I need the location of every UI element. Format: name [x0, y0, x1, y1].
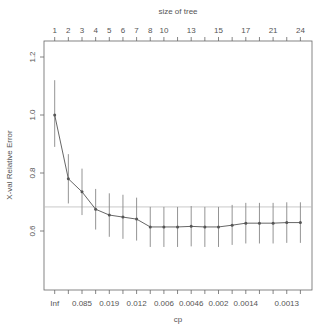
x-axis-title: cp [174, 315, 183, 324]
bottom-tick-label: Inf [50, 299, 60, 308]
top-tick-label: 2 [66, 26, 71, 35]
data-point [67, 177, 70, 180]
bottom-tick-label: 0.006 [154, 299, 175, 308]
bottom-tick-label: 0.085 [72, 299, 93, 308]
data-point [121, 216, 124, 219]
data-point [81, 190, 84, 193]
top-tick-label: 3 [80, 26, 85, 35]
data-point [108, 214, 111, 217]
top-tick-label: 10 [159, 26, 168, 35]
data-point [244, 222, 247, 225]
data-point [94, 208, 97, 211]
y-tick-label: 0.6 [28, 225, 37, 237]
top-tick-label: 4 [93, 26, 98, 35]
top-tick-label: 15 [214, 26, 223, 35]
top-tick-label: 7 [134, 26, 139, 35]
plot-frame [44, 41, 312, 290]
data-point [299, 221, 302, 224]
data-point [53, 114, 56, 117]
bottom-tick-label: 0.0014 [234, 299, 259, 308]
data-point [258, 222, 261, 225]
bottom-tick-label: 0.0013 [275, 299, 300, 308]
y-axis-title: X-val Relative Error [5, 130, 14, 200]
data-point [272, 222, 275, 225]
data-point [149, 225, 152, 228]
data-point [135, 218, 138, 221]
bottom-tick-label: 0.012 [127, 299, 148, 308]
bottom-tick-label: 0.019 [99, 299, 120, 308]
data-point [162, 225, 165, 228]
bottom-tick-label: 0.002 [208, 299, 229, 308]
top-tick-label: 1 [52, 26, 57, 35]
top-tick-label: 17 [241, 26, 250, 35]
top-tick-label: 5 [107, 26, 112, 35]
bottom-tick-label: 0.0046 [179, 299, 204, 308]
bottom-axis: Inf0.0850.0190.0120.0060.00460.0020.0014… [50, 290, 300, 308]
top-tick-label: 13 [187, 26, 196, 35]
data-point [190, 225, 193, 228]
top-tick-label: 6 [121, 26, 126, 35]
data-point [176, 225, 179, 228]
data-point [217, 225, 220, 228]
data-point [231, 224, 234, 227]
error-bars [55, 80, 301, 247]
data-point [285, 221, 288, 224]
y-axis: 0.60.81.01.2 [28, 51, 44, 237]
y-tick-label: 0.8 [28, 167, 37, 179]
top-tick-label: 21 [269, 26, 278, 35]
y-tick-label: 1.0 [28, 109, 37, 121]
data-point [203, 225, 206, 228]
y-tick-label: 1.2 [28, 51, 37, 63]
top-tick-label: 24 [296, 26, 305, 35]
top-axis-title: size of tree [158, 7, 198, 16]
top-axis: 12345678101315172124 [52, 26, 305, 41]
top-tick-label: 8 [148, 26, 153, 35]
cp-plot: size of tree cp X-val Relative Error 0.6… [0, 0, 323, 333]
